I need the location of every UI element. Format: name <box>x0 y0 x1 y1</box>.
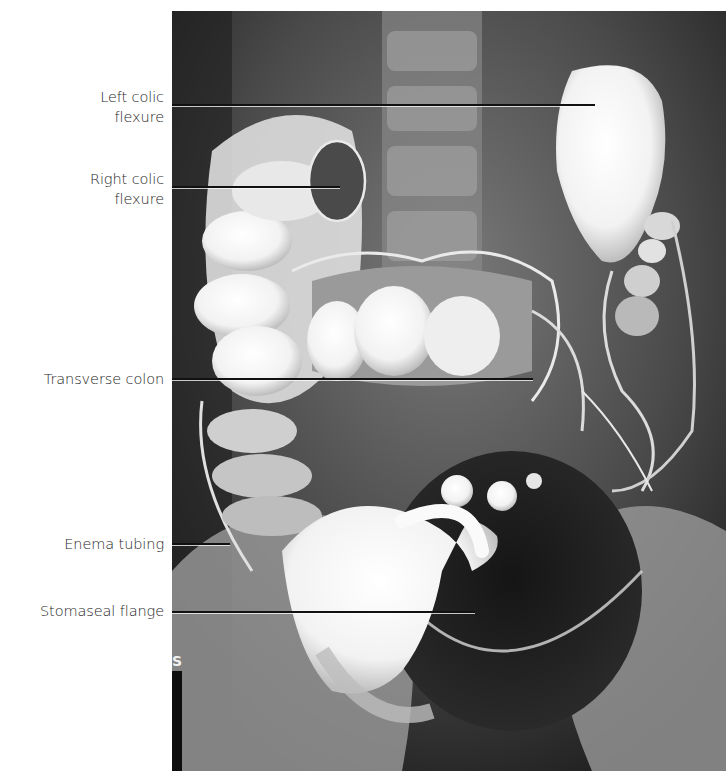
leader-line-right-colic-flexure <box>172 186 340 188</box>
label-transverse-colon-text: Transverse colon <box>44 369 164 389</box>
label-stomaseal-flange: Stomaseal flange <box>40 601 164 621</box>
xray-rendering: S <box>172 11 726 771</box>
film-marker: S <box>172 653 182 669</box>
label-enema-tubing-text: Enema tubing <box>64 534 164 554</box>
barium-enema-xray-image: S <box>172 11 726 771</box>
leader-line-enema-tubing <box>172 543 230 545</box>
label-left-colic-flexure-line1: Left colic <box>100 87 164 107</box>
label-stomaseal-flange-text: Stomaseal flange <box>40 601 164 621</box>
label-left-colic-flexure: Left colic flexure <box>100 87 164 127</box>
leader-line-left-colic-flexure <box>172 104 595 106</box>
label-enema-tubing: Enema tubing <box>64 534 164 554</box>
label-right-colic-flexure: Right colic flexure <box>90 169 164 209</box>
annotated-xray-figure: S Left colic flexure Right colic flexure… <box>0 0 726 779</box>
leader-line-stomaseal-flange <box>172 611 475 613</box>
label-transverse-colon: Transverse colon <box>44 369 164 389</box>
label-right-colic-flexure-line1: Right colic <box>90 169 164 189</box>
leader-line-transverse-colon <box>172 378 533 380</box>
label-left-colic-flexure-line2: flexure <box>100 107 164 127</box>
label-right-colic-flexure-line2: flexure <box>90 189 164 209</box>
